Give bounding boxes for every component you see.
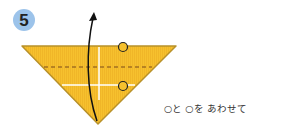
alignment-marker-top: [119, 43, 128, 52]
instruction-line-1: ○と ○を あわせて: [164, 102, 260, 116]
arrow-head-icon: [89, 12, 97, 21]
alignment-marker-bottom: [119, 82, 128, 91]
instruction-text: ○と ○を あわせて うえの かみだけ おる: [164, 74, 260, 129]
